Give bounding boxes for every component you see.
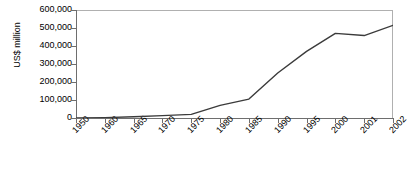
y-axis-tick-label: 600,000	[16, 5, 72, 14]
y-axis-tick-label: 0	[16, 113, 72, 122]
y-axis-tick-label: 100,000	[16, 95, 72, 104]
data-series-line	[76, 10, 393, 118]
y-axis-tick-labels: 600,000500,000400,000300,000200,000100,0…	[14, 0, 72, 170]
y-axis-tick-label: 200,000	[16, 77, 72, 86]
y-axis-tick-label: 500,000	[16, 23, 72, 32]
chart-container: US$ million 600,000500,000400,000300,000…	[0, 0, 410, 170]
y-axis-tick-label: 300,000	[16, 59, 72, 68]
y-axis-tick-label: 400,000	[16, 41, 72, 50]
